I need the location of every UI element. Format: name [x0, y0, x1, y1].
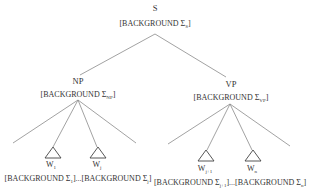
leaf-wj1-label: Wj+1: [198, 164, 213, 174]
edge-s-np: [80, 34, 155, 75]
leaf-wn-label: Wn: [247, 164, 258, 174]
leaf-triangle-w1: [45, 147, 61, 158]
np-leaf-features: [BACKGROUND Σ1]...[BACKGROUND Σj]: [5, 174, 152, 184]
leaf-triangle-wj1: [198, 150, 214, 161]
vp-branches: [168, 104, 290, 150]
vp-leaf-features: [BACKGROUND Σj+1]...[BACKGROUND Σn]: [154, 178, 306, 188]
node-s-label: S: [153, 3, 158, 13]
node-vp-label: VP: [226, 79, 237, 89]
leaf-triangle-wn: [245, 150, 261, 161]
edge-s-vp: [155, 34, 226, 77]
node-np-label: NP: [73, 76, 84, 86]
node-vp-feature: [BACKGROUND ΣVP]: [194, 93, 269, 103]
node-s-feature: [BACKGROUND ΣS]: [119, 19, 191, 29]
node-np-feature: [BACKGROUND ΣNP]: [41, 90, 116, 100]
leaf-wj-label: Wj: [93, 160, 102, 170]
leaf-triangle-wj: [90, 147, 106, 158]
leaf-w1-label: W1: [46, 160, 57, 170]
np-branches: [13, 100, 136, 147]
syntax-tree-diagram: S [BACKGROUND ΣS] NP [BACKGROUND ΣNP] W1…: [0, 0, 310, 191]
